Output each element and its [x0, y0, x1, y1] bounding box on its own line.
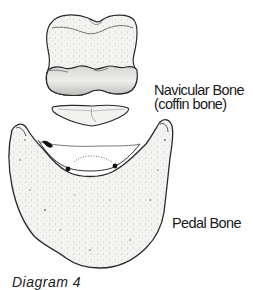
pedal-bone	[9, 120, 173, 268]
diagram-caption: Diagram 4	[12, 274, 81, 290]
short-pastern-bone	[46, 15, 137, 96]
pedal-bone-label: Pedal Bone	[172, 216, 241, 230]
coffin-bone-sublabel: (coffin bone)	[154, 97, 227, 111]
navicular-bone-label: Navicular Bone	[154, 83, 244, 97]
navicular-bone	[52, 105, 128, 126]
